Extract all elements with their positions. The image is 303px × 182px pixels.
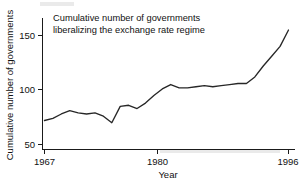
- y-tick-label-50: 50: [24, 139, 35, 150]
- x-axis-group: [43, 150, 296, 155]
- x-tick-label-1980: 1980: [147, 156, 168, 167]
- plot-title-line-1: Cumulative number of governments: [53, 13, 201, 23]
- y-axis-title: Cumulative number of governments: [4, 10, 15, 161]
- y-tick-label-150: 150: [19, 30, 35, 41]
- line-chart: 150 100 50 1967 1980 1996 Year Cumulativ…: [0, 0, 303, 182]
- y-tick-label-100: 100: [19, 84, 35, 95]
- data-series-line: [45, 30, 289, 123]
- x-tick-label-1967: 1967: [34, 156, 55, 167]
- x-tick-label-1996: 1996: [277, 156, 298, 167]
- y-axis-group: [38, 18, 43, 150]
- x-axis-title: Year: [158, 169, 177, 180]
- plot-title-line-2: liberalizing the exchange rate regime: [53, 25, 205, 35]
- chart-figure: 150 100 50 1967 1980 1996 Year Cumulativ…: [0, 0, 303, 182]
